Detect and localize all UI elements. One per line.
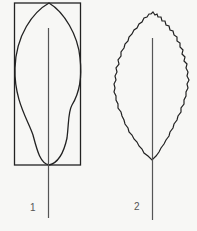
leaf-1-label: 1 [30,203,36,213]
leaf-1 [15,3,81,218]
leaf-2-label: 2 [134,202,140,212]
leaf-diagram [0,0,197,231]
leaf-2-outline [114,12,189,160]
leaf-1-outline [15,3,81,165]
leaf-2 [114,12,189,220]
